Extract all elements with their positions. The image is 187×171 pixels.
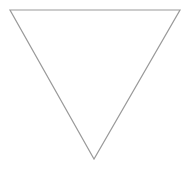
triangle-diagram: [0, 0, 187, 171]
inverted-triangle-shape: [10, 10, 180, 159]
diagram-canvas: [0, 0, 187, 171]
